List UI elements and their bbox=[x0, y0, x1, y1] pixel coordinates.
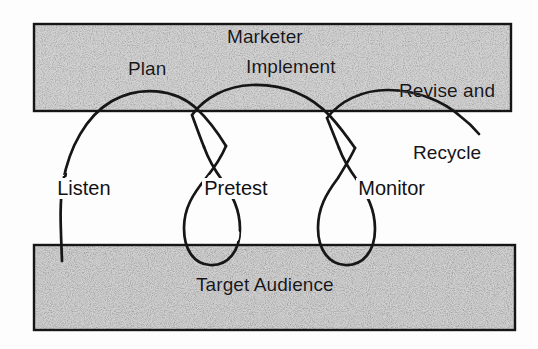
label-pretest-text: Pretest bbox=[202, 178, 269, 199]
label-marketer: Marketer bbox=[227, 27, 303, 48]
label-monitor: Monitor bbox=[334, 157, 427, 220]
label-implement: Implement bbox=[246, 57, 336, 78]
label-revise-line-1: Revise and bbox=[399, 81, 495, 102]
label-plan: Plan bbox=[128, 59, 166, 80]
label-listen-text: Listen bbox=[55, 178, 112, 199]
label-monitor-text: Monitor bbox=[356, 178, 427, 199]
label-target-audience: Target Audience bbox=[196, 275, 334, 296]
figure-canvas: Marketer Plan Implement Revise and Recyc… bbox=[0, 0, 538, 349]
label-listen: Listen bbox=[33, 157, 113, 220]
label-pretest: Pretest bbox=[180, 157, 270, 220]
